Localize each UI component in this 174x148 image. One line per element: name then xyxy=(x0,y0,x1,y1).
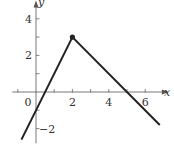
y-tick-label: 2 xyxy=(25,49,32,62)
x-tick-label: 4 xyxy=(105,96,112,109)
x-axis-label: x xyxy=(164,86,171,99)
peak-point xyxy=(70,35,75,40)
y-tick-label: 4 xyxy=(25,13,32,26)
tick-labels: 024624−2 xyxy=(25,13,149,136)
y-axis-label: y xyxy=(37,0,45,9)
y-axis xyxy=(34,1,39,144)
x-tick-label: 0 xyxy=(25,96,32,109)
y-ticks xyxy=(36,19,40,129)
function-graph: 024624−2 x y xyxy=(0,0,174,148)
x-tick-label: 2 xyxy=(69,96,76,109)
y-tick-label: −2 xyxy=(39,123,55,136)
